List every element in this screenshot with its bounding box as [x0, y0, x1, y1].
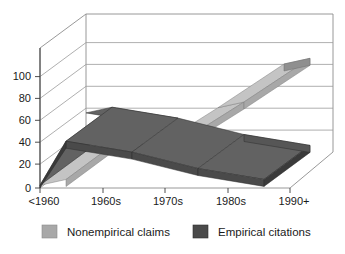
legend-swatch-empirical-citations: [193, 225, 208, 238]
x-tick-label-1970s: 1970s: [153, 195, 183, 207]
x-tick-label-1960s: 1960s: [91, 195, 121, 207]
x-tick-label-1990plus: 1990+: [279, 195, 310, 207]
legend-label-empirical-citations: Empirical citations: [218, 226, 311, 238]
chart-container: 100 80 60 40 20 0: [0, 0, 345, 254]
y-tick-label-0: 0: [25, 182, 31, 194]
legend-item-nonempirical-claims: Nonempirical claims: [42, 225, 170, 238]
y-tick-label-60: 60: [19, 114, 31, 126]
legend-label-nonempirical-claims: Nonempirical claims: [67, 226, 170, 238]
y-tick-label-20: 20: [19, 158, 31, 170]
x-tick-label-pre1960: <1960: [29, 195, 60, 207]
y-tick-label-80: 80: [19, 92, 31, 104]
y-tick-label-40: 40: [19, 136, 31, 148]
x-axis: <1960 1960s 1970s 1980s 1990+: [29, 188, 310, 207]
ribbon-chart-3d: 100 80 60 40 20 0: [0, 0, 345, 254]
legend-swatch-nonempirical-claims: [42, 225, 57, 238]
x-tick-label-1980s: 1980s: [216, 195, 246, 207]
legend-item-empirical-citations: Empirical citations: [193, 225, 311, 238]
y-tick-label-100: 100: [13, 70, 31, 82]
y-axis: 100 80 60 40 20 0: [13, 48, 40, 194]
chart-legend: Nonempirical claims Empirical citations: [42, 225, 311, 238]
